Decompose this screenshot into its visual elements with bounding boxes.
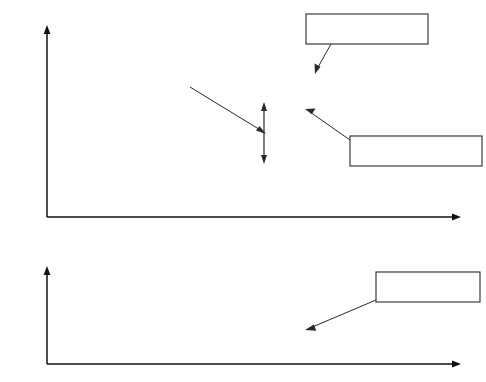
figure-root: [0, 0, 486, 382]
callout-inventory-box: [376, 272, 480, 302]
callout-cumulative-arrival: [306, 14, 428, 74]
callout-departure-box: [350, 136, 482, 166]
bottom-chart-panel: [44, 266, 480, 367]
top-chart-panel: [44, 14, 482, 220]
callout-inventory-curve: [305, 272, 480, 331]
bottom-y-axis: [44, 266, 51, 364]
top-y-axis: [44, 25, 51, 217]
top-x-axis: [47, 214, 461, 221]
inventory-note-leader: [190, 87, 266, 134]
callout-arrival-box: [306, 14, 428, 44]
bottom-x-axis: [47, 361, 461, 368]
callout-cumulative-departure: [305, 109, 482, 166]
two-panel-step-chart: [0, 0, 486, 382]
